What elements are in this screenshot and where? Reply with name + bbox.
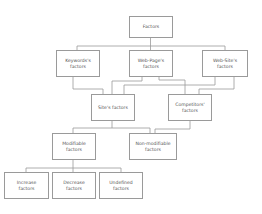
node-decrease-factors: Decrease factors <box>52 172 96 199</box>
node-label-line2: factors <box>63 186 85 192</box>
node-label-line2: factors <box>213 64 237 70</box>
node-label: Factors <box>143 24 159 30</box>
node-sites-factors: Site's factors <box>91 94 135 121</box>
node-increase-factors: Increase factors <box>4 172 49 199</box>
node-keywords-factors: Keywords's factors <box>56 50 100 77</box>
node-label: Site's factors <box>98 105 128 111</box>
node-competitors-factors: Competitors' factors <box>168 94 212 121</box>
node-label-line2: factors <box>17 186 36 192</box>
node-label-line1: Web-Page's <box>138 58 164 64</box>
node-undefined-factors: Undefined factors <box>99 172 143 199</box>
node-non-modifiable-factors: Non-modifiable factors <box>129 133 177 160</box>
node-web-site-factors: Web-Site's factors <box>202 50 248 77</box>
node-label-line2: factors <box>109 186 133 192</box>
node-label-line1: Non-modifiable <box>135 141 170 147</box>
node-factors: Factors <box>129 16 173 38</box>
node-label-line2: factors <box>62 147 86 153</box>
edge-keywords-site <box>73 76 103 94</box>
node-label-line2: factors <box>138 64 164 70</box>
node-label-line1: Keywords's <box>65 58 91 64</box>
edge-factors-children <box>77 37 225 50</box>
edge-site-children <box>73 120 150 133</box>
node-label-line2: factors <box>65 64 91 70</box>
edge-modifiable-children <box>26 159 121 172</box>
node-label-line1: Modifiable <box>62 141 86 147</box>
node-label-line1: Web-Site's <box>213 58 237 64</box>
node-label-line2: factors <box>175 108 204 114</box>
node-label-line1: Competitors' <box>175 102 204 108</box>
factors-hierarchy-diagram: Factors Keywords's factors Web-Page's fa… <box>0 0 262 214</box>
node-modifiable-factors: Modifiable factors <box>52 133 96 160</box>
node-label-line1: Decrease <box>63 180 85 186</box>
node-label-line1: Increase <box>17 180 36 186</box>
edge-website-site <box>124 76 215 94</box>
node-web-page-factors: Web-Page's factors <box>129 50 173 77</box>
node-label-line2: factors <box>135 147 170 153</box>
edge-competitors-nonmodifiable <box>155 120 190 133</box>
node-label-line1: Undefined <box>109 180 133 186</box>
